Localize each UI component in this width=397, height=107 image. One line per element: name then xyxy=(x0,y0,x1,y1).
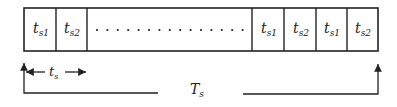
svg-text:ts1: ts1 xyxy=(33,20,49,38)
svg-text:ts2: ts2 xyxy=(64,20,80,38)
slot-label-2: ts2 xyxy=(64,20,80,38)
slot-label-6: ts1 xyxy=(324,20,340,38)
frame-diagram: ts1 ts2 ts1 ts2 ts1 ts2 ts Ts xyxy=(0,0,397,107)
slot-label-7: ts2 xyxy=(355,20,371,38)
slot-label-5: ts2 xyxy=(293,20,309,38)
svg-text:ts1: ts1 xyxy=(324,20,340,38)
period-label: Ts xyxy=(190,81,204,99)
slot-span-label: ts xyxy=(49,64,58,81)
slot-label-4: ts1 xyxy=(261,20,277,38)
svg-text:ts1: ts1 xyxy=(261,20,277,38)
svg-text:ts2: ts2 xyxy=(293,20,309,38)
slot-label-1: ts1 xyxy=(33,20,49,38)
ellipsis-dots xyxy=(96,29,244,31)
svg-text:ts2: ts2 xyxy=(355,20,371,38)
period-left-arrow-icon xyxy=(24,63,158,93)
period-right-arrow-icon xyxy=(243,64,378,94)
